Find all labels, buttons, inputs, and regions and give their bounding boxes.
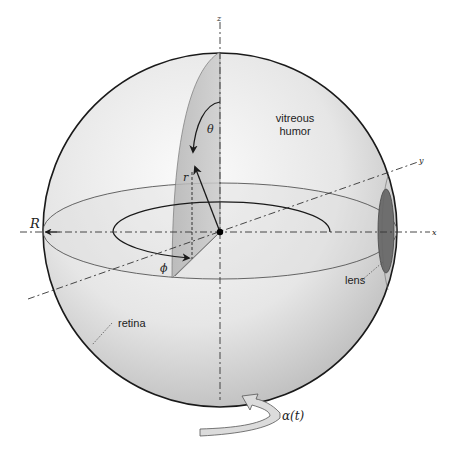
lens-shape	[378, 189, 394, 273]
lens-label: lens	[345, 274, 366, 286]
y-axis-label: y	[418, 156, 424, 165]
vitreous-humor-label-line2: humor	[279, 125, 311, 137]
origin-point	[217, 229, 223, 235]
phi-label: ϕ	[160, 262, 168, 275]
x-axis-label: x	[432, 228, 437, 237]
vitreous-humor-label-line1: vitreous	[276, 112, 315, 124]
eye-sphere-diagram: z x y R r θ ϕ α(t) vitreous humor lens r…	[0, 0, 457, 472]
retina-label: retina	[118, 317, 146, 329]
radius-label: R	[29, 216, 40, 231]
theta-label: θ	[207, 123, 214, 136]
alpha-label: α(t)	[282, 409, 305, 423]
z-axis-label: z	[216, 14, 222, 23]
r-label: r	[183, 171, 189, 184]
